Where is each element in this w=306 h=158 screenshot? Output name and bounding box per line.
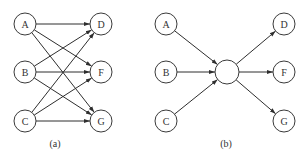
diagram-caption: (b)	[220, 138, 232, 150]
node-d: D	[273, 13, 295, 35]
node-label: F	[98, 67, 104, 78]
node-label: D	[97, 19, 104, 30]
node-f: F	[90, 61, 112, 83]
node-a: A	[155, 13, 177, 35]
diagram-caption: (a)	[49, 138, 60, 150]
node-d: D	[90, 13, 112, 35]
edge-h-to-d	[236, 31, 275, 64]
edge-h-to-g	[236, 80, 276, 114]
node-label: D	[280, 19, 287, 30]
node-c: C	[14, 110, 36, 132]
node-g: G	[273, 110, 295, 132]
node-b: B	[155, 61, 177, 83]
node-f: F	[273, 61, 295, 83]
edge-c-to-h	[175, 80, 218, 115]
node-c: C	[155, 110, 177, 132]
node-label: B	[22, 67, 29, 78]
node-label: C	[22, 116, 29, 127]
node-label: A	[21, 19, 29, 30]
node-label: A	[162, 19, 170, 30]
node-label: G	[280, 116, 287, 127]
node-g: G	[90, 110, 112, 132]
node-label: F	[281, 67, 287, 78]
node-label: B	[163, 67, 170, 78]
node-label: G	[97, 116, 104, 127]
diagram-b-hub: ABCDFG(b)	[155, 13, 295, 150]
node-b: B	[14, 61, 36, 83]
diagram-canvas: ABCDFG(a) ABCDFG(b)	[0, 0, 306, 158]
node-a: A	[14, 13, 36, 35]
diagram-a-fully-connected: ABCDFG(a)	[14, 13, 112, 150]
hub-node	[215, 60, 239, 84]
node-label: C	[163, 116, 170, 127]
edge-a-to-h	[175, 31, 218, 65]
